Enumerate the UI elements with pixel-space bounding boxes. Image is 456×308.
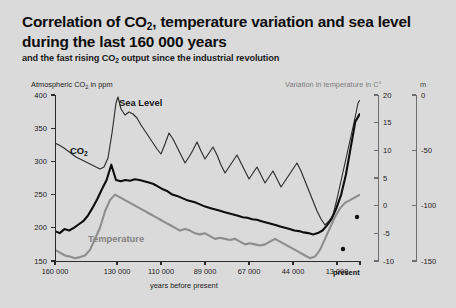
y-tick-label-left: 350: [21, 124, 47, 133]
left-axis-caption: Atmospheric CO2 in ppm: [31, 80, 113, 89]
x-tick: [54, 261, 55, 265]
x-tick: [292, 261, 293, 265]
subtitle-subscript: 2: [115, 57, 119, 64]
y-tick-label-sealevel: -150: [421, 257, 451, 266]
subtitle-part-2: output since the industrial revolution: [119, 53, 279, 63]
y-tick-label-left: 150: [21, 257, 47, 266]
y-tick-label-temperature: -5: [383, 229, 413, 238]
page-subtitle: and the fast rising CO2 output since the…: [22, 53, 436, 63]
y-tick-label-temperature: 20: [383, 91, 413, 100]
y-tick-label-temperature: 5: [383, 174, 413, 183]
x-tick: [336, 261, 337, 265]
y-tick-sealevel: [412, 205, 416, 206]
y-tick-left: [51, 161, 55, 162]
x-axis-title: years before present: [150, 281, 218, 290]
y-tick-label-temperature: 10: [383, 146, 413, 155]
series-line-sea-level: [55, 97, 360, 225]
y-tick-label-left: 300: [21, 157, 47, 166]
left-axis-caption-part-1: Atmospheric CO: [31, 80, 85, 89]
series-line-co2: [55, 114, 360, 235]
y-tick-label-temperature: 0: [383, 201, 413, 210]
series-label-sea-level: Sea Level: [119, 97, 162, 108]
y-tick-sealevel: [412, 260, 416, 261]
y-tick-label-left: 400: [21, 91, 47, 100]
y-tick-label-temperature: 15: [383, 118, 413, 127]
x-axis-present-label: present: [333, 268, 360, 277]
x-tick: [116, 261, 117, 265]
y-axis-sealevel-spine: [416, 95, 417, 262]
y-tick-temperature: [374, 205, 378, 206]
title-subscript: 2: [147, 21, 152, 32]
page-title-line-1: Correlation of CO2, temperature variatio…: [22, 13, 436, 33]
y-tick-temperature: [374, 260, 378, 261]
chart-page: Correlation of CO2, temperature variatio…: [0, 0, 456, 308]
y-tick-temperature: [374, 177, 378, 178]
x-tick-label: 160 000: [28, 267, 82, 276]
series-label-co2-text: CO: [70, 145, 84, 156]
y-tick-temperature: [374, 122, 378, 123]
temperature-axis-caption: Variation in temperature in C°: [285, 80, 381, 89]
left-axis-caption-subscript: 2: [85, 84, 88, 90]
x-axis-spine: [55, 261, 360, 262]
y-tick-label-sealevel: 0: [421, 91, 451, 100]
x-tick: [359, 261, 360, 265]
y-axis-temperature-spine: [378, 95, 379, 262]
chart-header: Correlation of CO2, temperature variatio…: [22, 13, 436, 63]
page-title-line-2: during the last 160 000 years: [22, 33, 436, 51]
co2-data-marker: [341, 247, 345, 251]
y-tick-sealevel: [412, 94, 416, 95]
series-label-co2: CO2: [70, 145, 88, 156]
co2-data-markers: [341, 215, 359, 251]
sea-level-axis-caption: m: [420, 80, 426, 89]
x-tick: [248, 261, 249, 265]
x-tick: [204, 261, 205, 265]
y-tick-left: [51, 194, 55, 195]
subtitle-part-1: and the fast rising CO: [22, 53, 115, 63]
left-axis-caption-part-2: in ppm: [88, 80, 112, 89]
y-axis-left-spine: [55, 95, 56, 262]
y-tick-label-sealevel: -50: [421, 146, 451, 155]
y-tick-left: [51, 128, 55, 129]
y-tick-label-sealevel: -100: [421, 201, 451, 210]
title-part-2: , temperature variation and sea level: [152, 13, 411, 30]
y-tick-sealevel: [412, 150, 416, 151]
y-tick-label-left: 250: [21, 190, 47, 199]
y-tick-label-left: 200: [21, 223, 47, 232]
y-tick-left: [51, 227, 55, 228]
y-tick-temperature: [374, 94, 378, 95]
y-tick-left: [51, 94, 55, 95]
co2-data-marker: [355, 215, 359, 219]
series-label-co2-subscript: 2: [84, 150, 88, 157]
y-tick-temperature: [374, 233, 378, 234]
y-tick-temperature: [374, 150, 378, 151]
series-label-temperature: Temperature: [88, 233, 144, 244]
plot-area: Sea Level CO2 Temperature: [55, 95, 360, 261]
title-part-1: Correlation of CO: [22, 13, 147, 30]
y-tick-label-temperature: -10: [383, 257, 413, 266]
x-tick: [160, 261, 161, 265]
